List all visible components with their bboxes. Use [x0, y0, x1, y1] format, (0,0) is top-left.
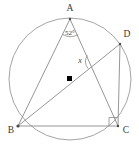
geometry-canvas: A D B C 52° x [0, 0, 139, 149]
vertex-label-C: C [123, 125, 129, 135]
circle-center-dot [67, 76, 72, 81]
vertex-label-A: A [67, 3, 74, 13]
vertex-dot-C [117, 125, 119, 127]
segment-B-D-diameter [18, 44, 120, 126]
vertex-dot-A [69, 18, 71, 20]
vertex-dot-D [119, 43, 121, 45]
vertex-label-B: B [8, 125, 14, 135]
segment-A-B [18, 19, 70, 126]
geometry-diagram-container: A D B C 52° x [0, 0, 139, 149]
angle-label-52-degrees: 52° [65, 29, 75, 37]
vertex-label-D: D [124, 29, 131, 39]
angle-label-x: x [77, 56, 82, 65]
vertex-dot-B [16, 124, 19, 127]
